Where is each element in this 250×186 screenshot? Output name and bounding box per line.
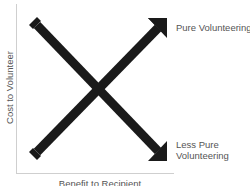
label-less-pure-line1: Less Pure — [176, 139, 229, 150]
label-pure-volunteering: Pure Volunteering — [176, 22, 250, 33]
label-less-pure-volunteering: Less Pure Volunteering — [176, 139, 229, 161]
label-less-pure-line2: Volunteering — [176, 150, 229, 161]
